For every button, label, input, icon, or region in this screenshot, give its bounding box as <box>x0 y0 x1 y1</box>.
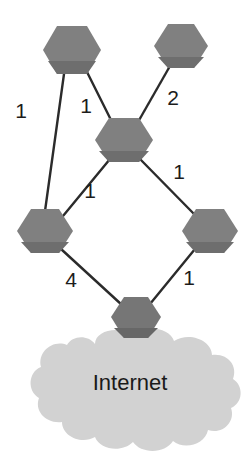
edge-center-midright <box>139 158 196 216</box>
edge-weight-topleft-center: 1 <box>80 94 92 117</box>
cloud-label: Internet <box>93 370 168 395</box>
edge-weight-topright-center: 2 <box>167 86 179 109</box>
edge-weight-center-midright: 1 <box>173 160 185 183</box>
node-top-left[interactable] <box>43 26 101 74</box>
edge-weight-midleft-bottom: 4 <box>65 268 77 291</box>
internet-cloud[interactable]: Internet <box>31 329 241 451</box>
hexagon-shadow <box>158 57 204 68</box>
node-top-right[interactable] <box>154 24 208 68</box>
edge-weight-center-midleft: 1 <box>84 179 96 202</box>
network-diagram: Internet <box>0 0 248 468</box>
topology-canvas: Internet <box>0 0 248 468</box>
edge-weight-midright-bottom: 1 <box>183 266 195 289</box>
edge-weight-topleft-midleft: 1 <box>15 99 27 122</box>
node-mid-right[interactable] <box>182 209 238 253</box>
hexagon-shadow <box>48 61 96 74</box>
edge-topleft-midleft <box>45 74 64 211</box>
node-center[interactable] <box>95 118 153 162</box>
edge-topright-center <box>138 66 170 122</box>
